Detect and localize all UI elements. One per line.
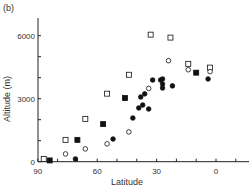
data-point [131,116,136,121]
svg-text:6000: 6000 [17,32,35,41]
data-point [160,77,165,82]
data-point [208,69,213,74]
data-point [166,58,171,63]
data-point [170,84,175,89]
data-point [111,137,116,142]
data-point [138,95,143,100]
data-point [142,92,147,97]
data-point [75,137,80,142]
data-point [136,106,141,111]
svg-text:60: 60 [93,167,102,176]
data-point [41,156,46,161]
data-point [105,91,110,96]
x-axis-label: Latitude [111,177,143,187]
data-point [186,67,191,72]
svg-text:3000: 3000 [17,95,35,104]
data-point [83,116,88,121]
svg-text:90: 90 [33,167,42,176]
svg-text:30: 30 [152,167,161,176]
data-point [186,61,191,66]
data-point [101,122,106,127]
data-point [168,35,173,40]
data-point [126,72,131,77]
y-axis-label: Altitude (m) [2,76,12,122]
data-point [206,77,211,82]
data-point [194,70,199,75]
data-point [140,103,145,108]
data-point [160,86,165,91]
data-point [127,130,132,135]
data-point [148,32,153,37]
data-points [41,32,212,163]
axes: 0300060009060300 [17,18,249,176]
data-point [63,137,68,142]
data-point [146,107,151,112]
svg-text:0: 0 [214,167,219,176]
panel-label: (b) [3,3,14,13]
svg-text:0: 0 [31,158,36,167]
data-point [105,142,110,147]
data-point [122,96,127,101]
data-point [150,78,155,83]
scatter-chart: (b) 0300060009060300 Latitude Altitude (… [0,0,249,188]
data-point [83,147,88,152]
data-point [47,158,52,163]
data-point [73,157,78,162]
data-point [146,86,151,91]
data-point [63,152,68,157]
